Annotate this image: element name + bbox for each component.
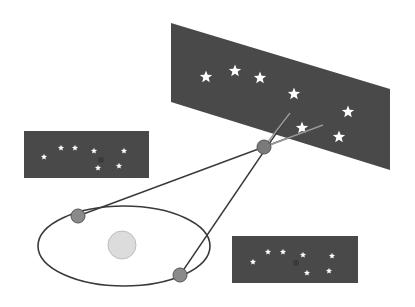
nearby-star-image-icon: [293, 260, 299, 266]
sun-icon: [108, 231, 136, 259]
sky-panel-right: [232, 236, 358, 283]
nearby-star-icon: [257, 140, 271, 154]
sky-panel-left: [24, 131, 149, 178]
earth-january-icon: [71, 209, 85, 223]
diagram-canvas: [0, 0, 415, 307]
parallax-diagram: [0, 0, 415, 307]
nearby-star-image-icon: [98, 157, 104, 163]
earth-july-icon: [173, 268, 187, 282]
sky-panel-large: [171, 23, 390, 170]
